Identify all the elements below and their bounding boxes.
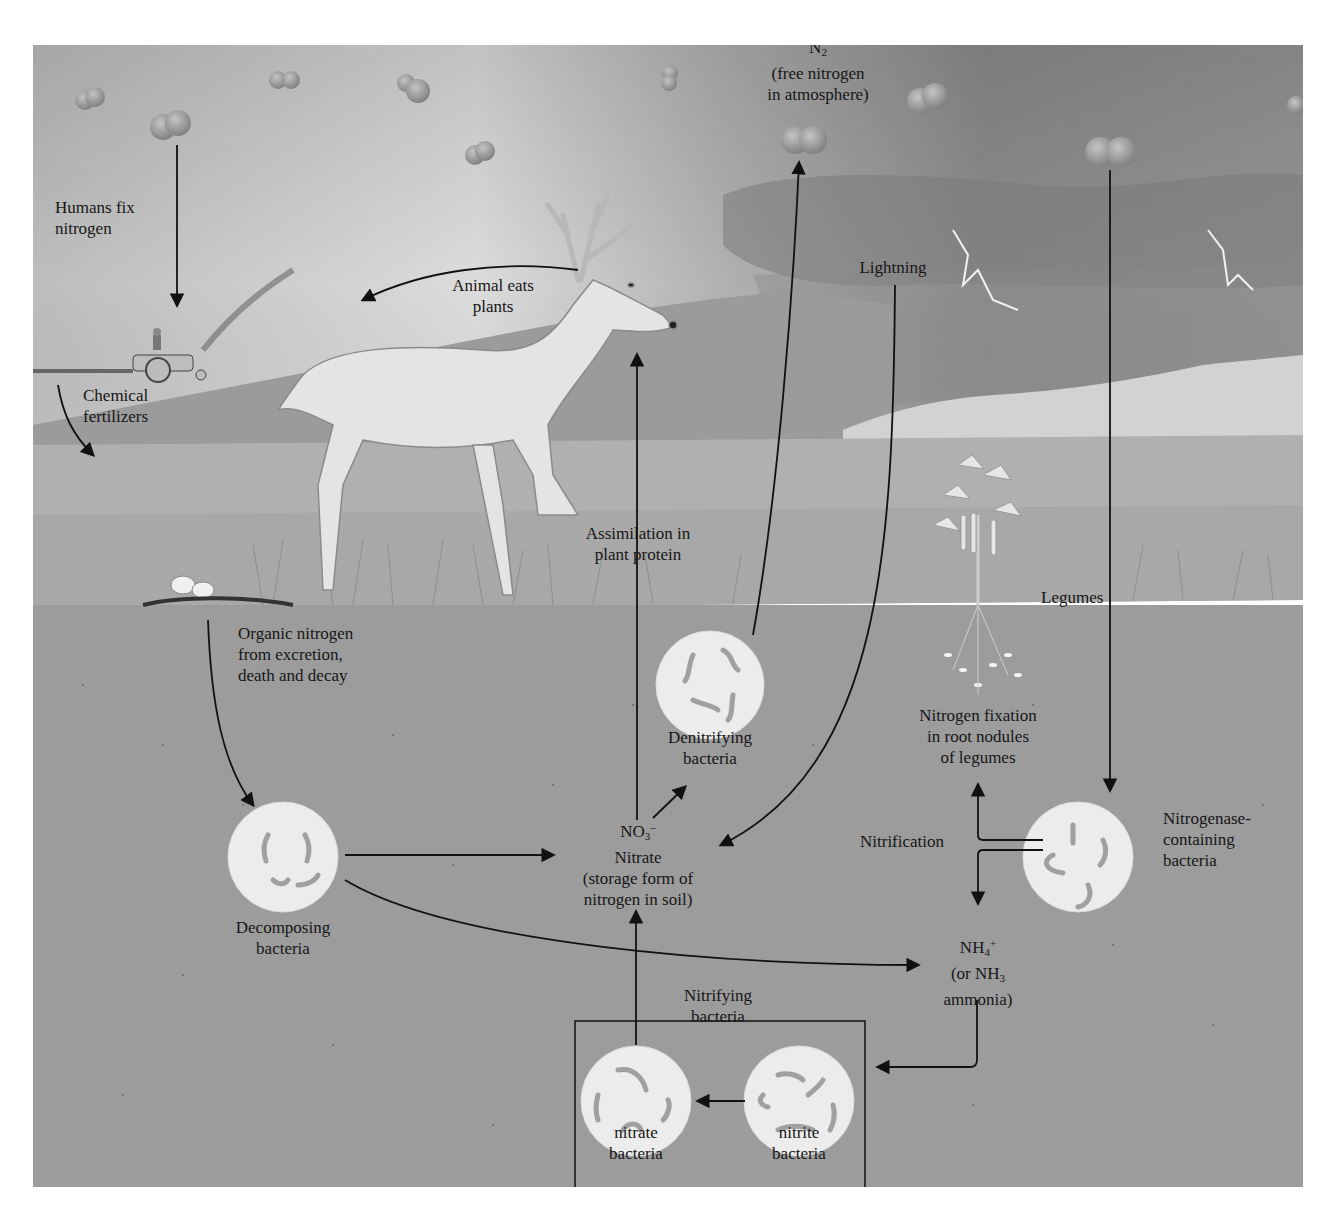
assimilation-label: Assimilation in plant protein <box>563 523 713 565</box>
n2-label: N2 (free nitrogen in atmosphere) <box>753 45 883 105</box>
denitrifying-bacteria-circle <box>656 631 764 739</box>
decomposing-bacteria-circle <box>228 802 338 912</box>
animal-eats-plants-label: Animal eats plants <box>428 275 558 317</box>
nitrate-label: NO3– Nitrate (storage form of nitrogen i… <box>558 817 718 910</box>
legumes-label: Legumes <box>1041 587 1103 608</box>
nitrogenase-bacteria-label: Nitrogenase- containing bacteria <box>1163 808 1251 871</box>
nitrogen-cycle-diagram: N2 (free nitrogen in atmosphere) Humans … <box>33 45 1303 1187</box>
humans-fix-nitrogen-label: Humans fix nitrogen <box>55 197 135 239</box>
ammonium-label: NH4+ (or NH3 ammonia) <box>923 933 1033 1010</box>
chemical-fertilizers-label: Chemical fertilizers <box>83 385 148 427</box>
nitrogenase-bacteria-circle <box>1023 802 1133 912</box>
nitrification-label: Nitrification <box>860 831 944 852</box>
nitrite-bacteria-label: nitrite bacteria <box>749 1122 849 1164</box>
nitrate-bacteria-label: nitrate bacteria <box>586 1122 686 1164</box>
nitrogen-fixation-label: Nitrogen fixation in root nodules of leg… <box>893 705 1063 768</box>
organic-nitrogen-label: Organic nitrogen from excretion, death a… <box>238 623 353 686</box>
nitrifying-bacteria-label: Nitrifying bacteria <box>668 985 768 1027</box>
lightning-label: Lightning <box>833 257 953 278</box>
decomposing-bacteria-label: Decomposing bacteria <box>213 917 353 959</box>
denitrifying-bacteria-label: Denitrifying bacteria <box>650 727 770 769</box>
